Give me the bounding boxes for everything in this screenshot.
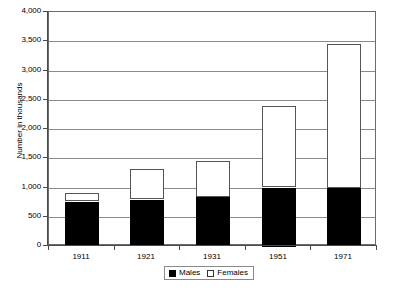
bar-segment-males-1931 [196,197,230,246]
y-tick-mark [43,187,47,188]
y-tick-label: 1,500 [0,153,41,161]
y-tick-label: 1,000 [0,183,41,191]
chart-legend: Males Females [164,266,254,280]
gridline [49,41,375,42]
y-tick-label: 0 [0,241,41,249]
bar-segment-males-1971 [327,188,361,246]
x-tick-label-1931: 1931 [192,252,232,261]
y-tick-label: 4,000 [0,7,41,15]
y-tick-label: 500 [0,212,41,220]
y-tick-mark [43,216,47,217]
y-tick-label: 2,500 [0,95,41,103]
legend-item-males: Males [169,269,200,277]
plot-area [48,11,376,245]
bar-segment-females-1921 [130,169,164,199]
legend-swatch-females-icon [207,270,214,277]
y-tick-mark [43,245,47,246]
y-tick-mark [43,128,47,129]
bar-segment-males-1921 [130,200,164,246]
x-tick-label-1971: 1971 [323,252,363,261]
x-tick-mark [114,246,115,250]
x-tick-label-1921: 1921 [126,252,166,261]
y-tick-mark [43,40,47,41]
legend-item-females: Females [207,269,248,277]
bar-segment-females-1971 [327,44,361,188]
y-tick-label: 2,000 [0,124,41,132]
x-tick-mark [179,246,180,250]
x-tick-mark [310,246,311,250]
stacked-bar-chart: Number in thousands 05001,0001,5002,0002… [0,0,396,290]
y-tick-mark [43,157,47,158]
legend-swatch-males-icon [169,270,176,277]
bar-segment-females-1931 [196,161,230,197]
y-tick-label: 3,500 [0,36,41,44]
bar-segment-males-1951 [262,188,296,247]
y-tick-mark [43,99,47,100]
x-tick-mark [245,246,246,250]
legend-label-males: Males [179,269,200,277]
x-tick-label-1911: 1911 [61,252,101,261]
bar-segment-females-1951 [262,106,296,187]
x-tick-label-1951: 1951 [258,252,298,261]
x-tick-mark [48,246,49,250]
legend-label-females: Females [217,269,248,277]
y-tick-mark [43,11,47,12]
y-tick-label: 3,000 [0,66,41,74]
y-tick-mark [43,70,47,71]
bar-segment-females-1911 [65,193,99,201]
x-tick-mark [376,246,377,250]
bar-segment-males-1911 [65,202,99,246]
x-axis-line [48,245,377,246]
